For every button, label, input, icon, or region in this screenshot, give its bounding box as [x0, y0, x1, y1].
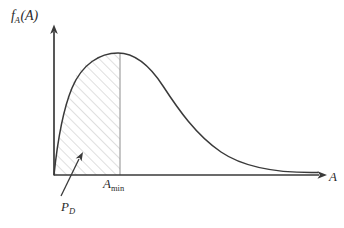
y-axis-label-argument: (A) [20, 8, 38, 23]
probability-label-subscript: D [69, 206, 75, 216]
x-axis-label: A [329, 170, 337, 183]
probability-label: PD [61, 200, 75, 213]
threshold-label-subscript: min [111, 183, 124, 193]
figure-container: fA(A) A Amin PD [0, 0, 344, 228]
y-axis-label-subscript: A [14, 15, 20, 25]
threshold-label-symbol: A [103, 176, 111, 191]
pdf-plot [0, 0, 344, 228]
threshold-label: Amin [103, 177, 124, 190]
probability-label-symbol: P [61, 199, 69, 214]
y-axis-label: fA(A) [11, 9, 38, 23]
